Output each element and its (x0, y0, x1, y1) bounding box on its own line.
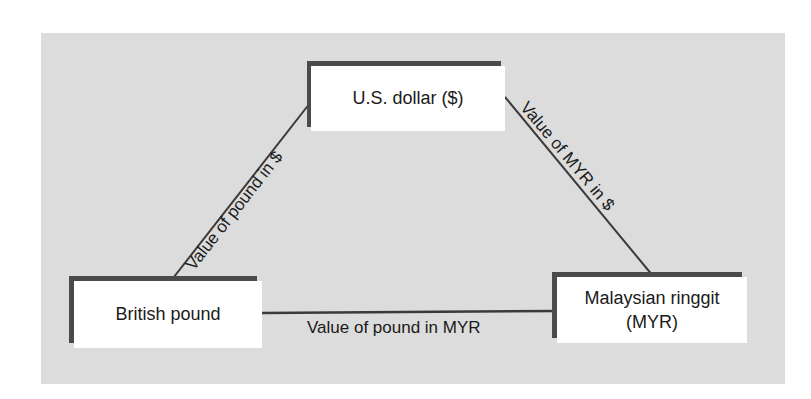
myr-node-label-line2: (MYR) (626, 310, 678, 334)
edge-line-gbp-myr (262, 311, 557, 313)
myr-node: Malaysian ringgit (MYR) (557, 277, 747, 343)
usd-node: U.S. dollar ($) (311, 66, 505, 131)
myr-node-label-line1: Malaysian ringgit (584, 286, 719, 310)
edge-label-gbp-myr: Value of pound in MYR (307, 318, 481, 338)
usd-node-label: U.S. dollar ($) (352, 86, 463, 110)
gbp-node-label: British pound (115, 302, 220, 326)
gbp-node: British pound (74, 281, 262, 348)
